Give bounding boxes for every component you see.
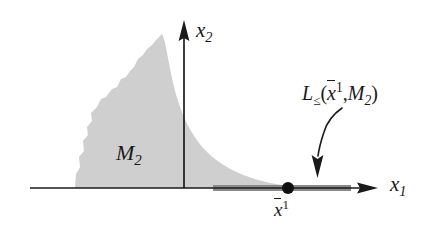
figure-container: x2 x1 M2 x1 L≤(x1,M2) — [0, 0, 434, 239]
level-set-label-base: L — [302, 82, 313, 104]
x-axis-arrowhead — [357, 182, 378, 193]
level-set-arg1-superscript: 1 — [336, 80, 343, 95]
level-set-arg2-base: M — [348, 82, 365, 104]
x-axis-label-subscript: 1 — [399, 183, 406, 199]
figure-canvas — [0, 0, 434, 239]
y-axis-label-subscript: 2 — [205, 29, 212, 45]
x-axis-label-base: x — [390, 172, 399, 196]
level-set-annotation-label: L≤(x1,M2) — [302, 80, 378, 109]
region-label-subscript: 2 — [134, 152, 141, 168]
y-axis-arrowhead — [179, 20, 190, 41]
shaded-region-m2 — [75, 34, 312, 188]
region-label-m2: M2 — [116, 140, 142, 169]
point-label-xbar1: x1 — [274, 197, 289, 221]
marked-point-xbar1 — [282, 182, 294, 194]
level-set-arg1-base: x — [327, 82, 336, 105]
annotation-leader-curve — [318, 108, 342, 156]
y-axis-label-base: x — [196, 18, 205, 42]
y-axis-label: x2 — [196, 18, 212, 46]
x-axis-label: x1 — [390, 172, 406, 200]
region-label-base: M — [116, 140, 134, 165]
level-set-close-paren: ) — [371, 82, 378, 104]
point-label-base: x — [274, 199, 282, 221]
annotation-leader-arrowhead — [312, 155, 324, 178]
point-label-superscript: 1 — [282, 197, 288, 212]
